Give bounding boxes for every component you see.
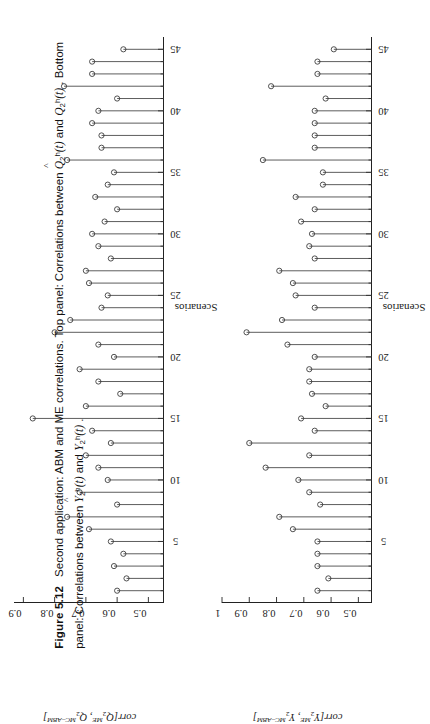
caption-and-1: and <box>53 119 65 138</box>
x-tick-label: 35 <box>372 167 396 178</box>
x-tick-label: 10 <box>164 474 188 485</box>
figure-caption: Figure 5.12Second application: ABM and M… <box>50 9 90 649</box>
y-axis-title: corr[Q2ME, Q2MC–ABM] <box>0 710 190 723</box>
stem-series <box>222 7 396 603</box>
stem-series <box>14 7 188 603</box>
x-tick-label: 30 <box>164 228 188 239</box>
caption-symbol-y: Y2h(t) <box>73 422 85 451</box>
x-tick-label: 25 <box>372 290 396 301</box>
x-tick-label: 20 <box>372 351 396 362</box>
caption-line-1: Second application: ABM and ME correlati… <box>53 172 65 576</box>
x-tick-label: 30 <box>372 228 396 239</box>
x-tick-label: 15 <box>164 413 188 424</box>
x-tick-label: 25 <box>164 290 188 301</box>
x-tick-label: 45 <box>164 44 188 55</box>
x-tick-label: 5 <box>372 536 396 547</box>
caption-symbol-q: Q2h(t) <box>53 85 65 116</box>
caption-line-2: panel: Correlations between <box>73 506 85 649</box>
figure-number: Figure 5.12 <box>53 586 65 649</box>
x-tick-label: 10 <box>372 474 396 485</box>
x-tick-label: 20 <box>164 351 188 362</box>
y-axis-title: corr[Y2ME, Y2MC–ABM] <box>198 710 398 723</box>
caption-symbol-qhat: ^Q2h(t) <box>53 138 65 169</box>
x-tick-label: 40 <box>164 105 188 116</box>
x-axis-label: Scenarios <box>166 302 226 314</box>
x-tick-label: 35 <box>164 167 188 178</box>
caption-and-2: and <box>73 454 85 473</box>
x-tick-label: 5 <box>164 536 188 547</box>
x-axis-label: Scenarios <box>374 302 430 314</box>
x-tick-label: 45 <box>372 44 396 55</box>
panel-bottom: 0.50.60.70.80.9151015202530354045corr[Y2… <box>222 37 372 603</box>
caption-period: . <box>73 418 85 421</box>
caption-bottom-word: . Bottom <box>53 42 65 85</box>
caption-symbol-yhat: ^Y2h(t) <box>73 473 85 502</box>
x-tick-label: 15 <box>372 413 396 424</box>
x-tick-label: 40 <box>372 105 396 116</box>
